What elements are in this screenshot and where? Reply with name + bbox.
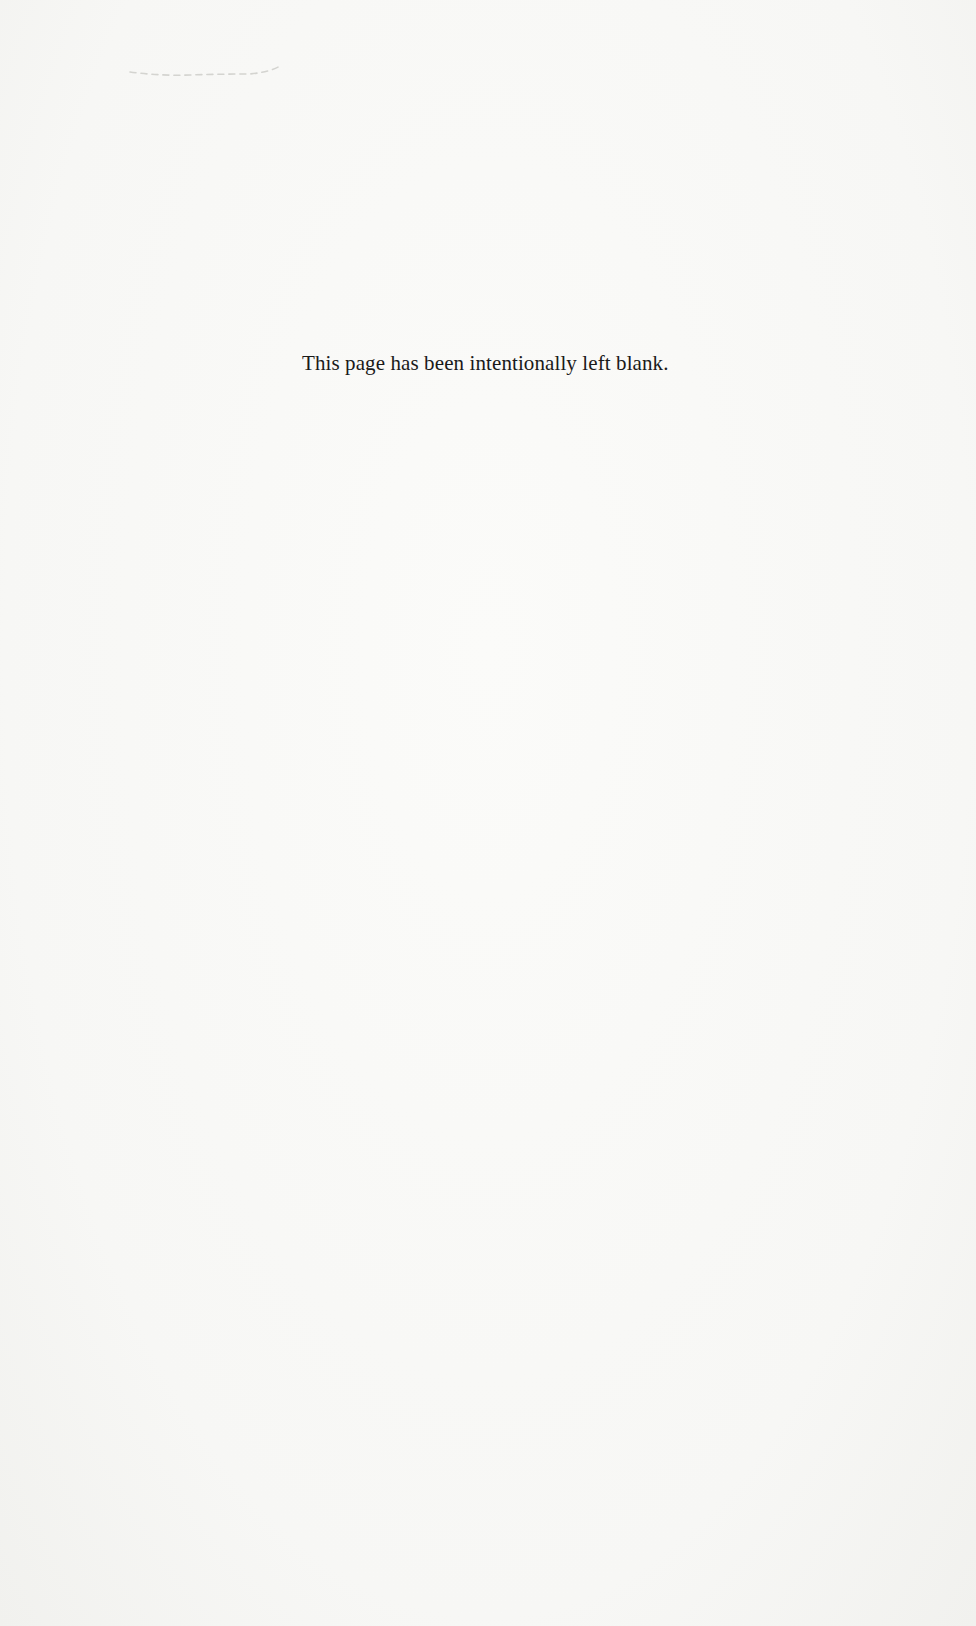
scan-artifact-mark: [120, 62, 340, 82]
blank-page-notice: This page has been intentionally left bl…: [302, 351, 669, 376]
document-page: This page has been intentionally left bl…: [0, 0, 976, 1626]
